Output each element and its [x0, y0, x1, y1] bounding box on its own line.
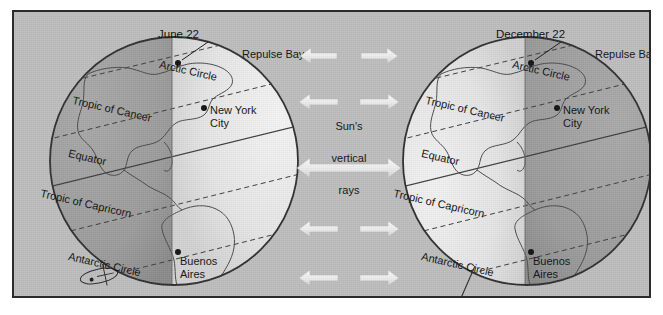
sun-ray-arrow-row-4 [299, 221, 399, 237]
city-label-buenos-aires-december: Buenos Aires [533, 255, 570, 280]
city-label-buenos-aires-june: Buenos Aires [180, 255, 217, 280]
diagram-frame: June 22 Arctic Circle Tropic of Cancer E… [12, 10, 651, 298]
new-york-city-dot [201, 105, 207, 111]
sun-rays-caption-line-1: Sun's [317, 120, 381, 132]
solstice-diagram-figure: June 22 Arctic Circle Tropic of Cancer E… [0, 0, 663, 315]
sun-rays-caption-line-3: rays [317, 184, 381, 196]
city-label-repulse-bay-june: Repulse Bay [242, 48, 304, 61]
sun-ray-arrow-row-5 [299, 270, 399, 286]
sun-ray-arrow-left [299, 270, 338, 286]
rotation-direction-dot [89, 277, 94, 282]
globe-december-title: December 22 [496, 28, 565, 41]
city-label-repulse-bay-december: Repulse Bay [595, 48, 651, 61]
sun-ray-arrow-left [299, 221, 338, 237]
sun-rays-caption-line-2: vertical [317, 152, 381, 164]
sun-ray-arrow-left [300, 48, 337, 64]
new-york-city-dot [554, 105, 560, 111]
sun-rays-arrow-group [297, 40, 401, 292]
sun-ray-arrow-row-1 [300, 48, 398, 64]
sun-ray-arrow-left [299, 94, 338, 110]
city-label-new-york-city-june: New York City [210, 104, 256, 129]
city-label-new-york-city-december: New York City [563, 104, 609, 129]
sun-ray-arrow-row-2 [299, 94, 399, 110]
globe-june-title: June 22 [158, 28, 199, 41]
